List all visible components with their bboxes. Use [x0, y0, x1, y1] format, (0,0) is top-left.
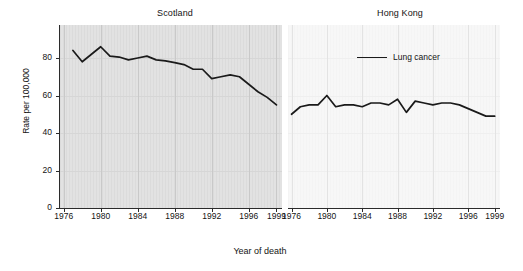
legend-label-lung-cancer: Lung cancer	[393, 52, 440, 62]
legend: Lung cancer	[357, 52, 440, 62]
panel-title-scotland: Scotland	[120, 8, 230, 18]
x-tick-label: 1980	[81, 211, 121, 221]
x-tick-label: 1992	[413, 211, 453, 221]
x-tick-label: 1999	[475, 211, 515, 221]
y-tick-label: 80	[26, 52, 52, 62]
x-tick-label: 1984	[342, 211, 382, 221]
x-axis-baseline-hongkong	[288, 208, 500, 209]
x-tick-label: 1988	[155, 211, 195, 221]
x-tick-label: 1980	[307, 211, 347, 221]
chart-figure: Scotland Hong Kong Rate per 100,000 Year…	[0, 0, 523, 271]
y-tick-label: 20	[26, 165, 52, 175]
x-tick-label: 1976	[44, 211, 84, 221]
x-tick-label: 1984	[118, 211, 158, 221]
legend-line-swatch	[357, 57, 387, 58]
y-tick-label: 40	[26, 127, 52, 137]
y-tick-label: 60	[26, 90, 52, 100]
x-tick-label: 1976	[272, 211, 312, 221]
x-axis-label: Year of death	[180, 246, 340, 256]
x-axis-baseline-scotland	[60, 208, 282, 209]
data-line-scotland	[73, 47, 277, 105]
series-line-scotland	[60, 25, 282, 208]
data-line-hongkong	[292, 96, 495, 117]
plot-area-scotland	[60, 25, 282, 208]
y-axis-spine	[59, 25, 60, 208]
x-tick-label: 1988	[378, 211, 418, 221]
panel-title-hong-kong: Hong Kong	[340, 8, 460, 18]
x-tick-label: 1992	[192, 211, 232, 221]
